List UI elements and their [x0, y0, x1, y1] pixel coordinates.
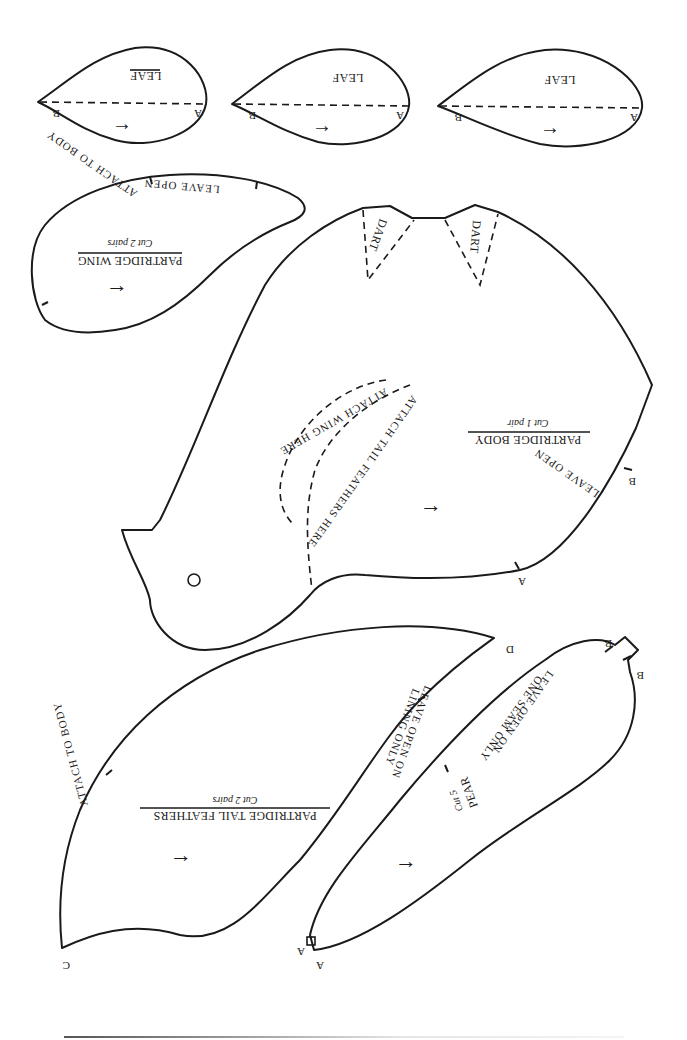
grain-arrow-icon: →: [106, 272, 128, 297]
dart-2-label: DART: [467, 220, 484, 255]
pattern-sheet: LEAF B A → LEAF B A → LEAF B A → LEAVE O…: [0, 0, 687, 1040]
partridge-wing-piece: LEAVE OPEN ATTACH TO BODY Cut 2 pairs PA…: [32, 129, 305, 333]
dart-1-label: DART: [366, 217, 391, 253]
pear-point-b2: B: [637, 670, 644, 682]
attach-to-body-label: ATTACH TO BODY: [44, 129, 139, 200]
leaf-title: LEAF: [332, 71, 363, 85]
pear-point-a1: A: [297, 946, 305, 958]
pear-point-b1: B: [605, 638, 612, 650]
leaf-title: LEAF: [130, 69, 161, 83]
leaf-point-b: B: [249, 110, 256, 122]
grain-arrow-icon: →: [112, 112, 132, 134]
leaf-piece-1: LEAF B A →: [38, 47, 206, 143]
pear-piece: B B A A LEAVE OPEN ON ONE SEAM ONLY Cut …: [297, 637, 644, 972]
leave-open-label: LEAVE OPEN: [532, 447, 601, 500]
leaf-piece-2: LEAF B A →: [232, 49, 409, 144]
leaf-point-a: A: [396, 110, 404, 122]
leave-open-label: LEAVE OPEN: [143, 177, 220, 196]
attach-to-body-label: ATTACH TO BODY: [51, 701, 90, 808]
wing-cut-count: Cut 2 pairs: [107, 238, 152, 249]
body-point-b: B: [629, 476, 636, 488]
grain-arrow-icon: →: [420, 492, 442, 517]
leaf-title: LEAF: [544, 73, 575, 87]
partridge-tail-feathers-piece: ATTACH TO BODY LEAVE OPEN ON LINING ONLY…: [51, 626, 514, 972]
pear-point-a2: A: [316, 960, 324, 972]
grain-arrow-icon: →: [170, 842, 192, 867]
grain-arrow-icon: →: [540, 116, 560, 138]
body-point-a: A: [518, 576, 526, 588]
tail-cut-count: Cut 2 pairs: [212, 795, 257, 806]
pear-opening-line-2: ONE SEAM ONLY: [477, 674, 545, 764]
page-edge-rule: [64, 1036, 624, 1038]
body-cut-count: Cut 1 pair: [507, 418, 548, 429]
partridge-body-piece: DART DART ATTACH WING HERE ATTACH TAIL F…: [122, 205, 652, 650]
body-title: PARTRIDGE BODY: [475, 433, 582, 447]
tail-point-c: C: [63, 960, 70, 972]
eye-mark: [188, 574, 200, 586]
tail-title: PARTRIDGE TAIL FEATHERS: [153, 809, 316, 823]
leaf-point-a: A: [630, 112, 638, 124]
tail-point-d: D: [506, 644, 514, 656]
attach-tail-guide-label: ATTACH TAIL FEATHERS HERE: [306, 394, 420, 550]
grain-arrow-icon: →: [395, 848, 417, 873]
leaf-piece-3: LEAF B A →: [438, 50, 642, 147]
leaf-point-b: B: [53, 108, 60, 120]
wing-title: PARTRIDGE WING: [77, 254, 182, 268]
leaf-point-a: A: [194, 108, 202, 120]
leaf-point-b: B: [455, 112, 462, 124]
grain-arrow-icon: →: [312, 114, 332, 136]
